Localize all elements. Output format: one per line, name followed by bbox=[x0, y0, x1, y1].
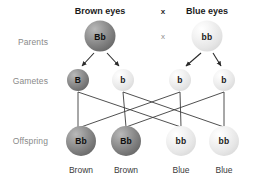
header-blue-eyes: Blue eyes bbox=[186, 6, 228, 16]
genotype-label: Bb bbox=[94, 31, 106, 41]
genotype-label: Bb bbox=[75, 136, 87, 146]
cross-symbol-bottom: x bbox=[161, 32, 165, 41]
row-label-parents: Parents bbox=[4, 37, 48, 47]
gamete-circle-gamete-b2: b bbox=[169, 69, 191, 91]
row-label-offspring: Offspring bbox=[4, 136, 48, 146]
offspring-circle-offspring-4: bb bbox=[209, 126, 239, 156]
genotype-label: B bbox=[75, 75, 81, 85]
parent-circle-parent-blue: bb bbox=[192, 21, 223, 52]
phenotype-label-offspring-4: Blue bbox=[215, 165, 232, 175]
genotype-label: bb bbox=[202, 31, 213, 41]
phenotype-label-offspring-3: Blue bbox=[172, 165, 189, 175]
gamete-circle-gamete-b3: b bbox=[213, 69, 235, 91]
arrow-line bbox=[186, 53, 201, 66]
genetics-cross-diagram: Brown eyes Blue eyes x x Parents Gametes… bbox=[0, 0, 254, 181]
cross-symbol-top: x bbox=[161, 7, 165, 16]
genotype-label: bb bbox=[176, 136, 187, 146]
phenotype-label-offspring-2: Brown bbox=[114, 165, 138, 175]
genotype-label: b bbox=[221, 75, 226, 85]
parent-circle-parent-brown: Bb bbox=[85, 21, 116, 52]
offspring-circle-offspring-2: Bb bbox=[111, 126, 141, 156]
genotype-label: b bbox=[177, 75, 182, 85]
offspring-circle-offspring-1: Bb bbox=[66, 126, 96, 156]
gamete-circle-gamete-b1: b bbox=[112, 69, 134, 91]
phenotype-label-offspring-1: Brown bbox=[69, 165, 93, 175]
arrow-line bbox=[82, 53, 94, 66]
header-brown-eyes: Brown eyes bbox=[75, 6, 126, 16]
genotype-label: Bb bbox=[120, 136, 132, 146]
genotype-label: b bbox=[120, 75, 125, 85]
row-label-gametes: Gametes bbox=[4, 76, 48, 86]
gamete-circle-gamete-B: B bbox=[67, 69, 89, 91]
arrow-line bbox=[107, 53, 119, 66]
offspring-circle-offspring-3: bb bbox=[166, 126, 196, 156]
arrow-line bbox=[213, 53, 221, 66]
genotype-label: bb bbox=[219, 136, 230, 146]
